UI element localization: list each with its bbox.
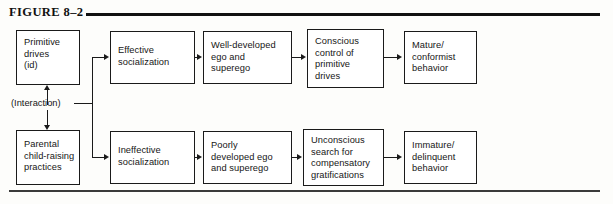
arrow-ineffective-to-ego-icon bbox=[197, 154, 202, 160]
interaction-arrow-up-icon bbox=[44, 85, 50, 90]
figure-title: FIGURE 8–2 bbox=[9, 5, 84, 20]
node-parental-practices: Parental child-raising practices bbox=[16, 130, 80, 185]
arrow-effective-to-ego-icon bbox=[197, 54, 202, 60]
node-parental-practices-label: Parental child-raising practices bbox=[24, 139, 79, 174]
trunk-branch-bottom-arrow-icon bbox=[104, 154, 109, 160]
arrow-unconscious-to-immature-icon bbox=[397, 154, 402, 160]
title-rule bbox=[86, 13, 600, 16]
node-primitive-drives-label: Primitive drives (id) bbox=[24, 37, 79, 72]
trunk-stub-line bbox=[74, 103, 93, 104]
node-effective-socialization-label: Effective socialization bbox=[118, 45, 194, 68]
node-well-developed-ego: Well-developed ego and superego bbox=[203, 31, 292, 84]
interaction-arrow-down-icon bbox=[44, 125, 50, 130]
node-mature-behavior-label: Mature/ conformist behavior bbox=[412, 40, 476, 75]
node-immature-behavior: Immature/ delinquent behavior bbox=[404, 131, 477, 184]
arrow-ego-to-conscious-icon bbox=[301, 54, 306, 60]
node-conscious-control: Conscious control of primitive drives bbox=[307, 29, 384, 88]
trunk-vertical-line bbox=[92, 57, 93, 158]
arrow-line-unconscious-to-immature bbox=[384, 157, 397, 158]
arrow-line-ego-to-conscious bbox=[292, 57, 301, 58]
node-unconscious-search-label: Unconscious search for compensatory grat… bbox=[311, 135, 383, 181]
arrow-ego-to-unconscious-icon bbox=[297, 154, 302, 160]
node-ineffective-socialization-label: Ineffective socialization bbox=[118, 145, 194, 168]
node-poorly-developed-ego: Poorly developed ego and superego bbox=[203, 131, 292, 184]
node-mature-behavior: Mature/ conformist behavior bbox=[404, 31, 477, 84]
interaction-line-lower bbox=[47, 110, 48, 125]
node-poorly-developed-ego-label: Poorly developed ego and superego bbox=[211, 140, 291, 175]
node-ineffective-socialization: Ineffective socialization bbox=[110, 131, 195, 184]
trunk-branch-top-arrow-icon bbox=[104, 54, 109, 60]
arrow-conscious-to-mature-icon bbox=[397, 54, 402, 60]
node-unconscious-search: Unconscious search for compensatory grat… bbox=[303, 129, 384, 186]
node-effective-socialization: Effective socialization bbox=[110, 31, 195, 84]
node-primitive-drives: Primitive drives (id) bbox=[16, 30, 80, 85]
node-conscious-control-label: Conscious control of primitive drives bbox=[315, 36, 383, 82]
node-well-developed-ego-label: Well-developed ego and superego bbox=[211, 40, 291, 75]
bottom-rule bbox=[9, 190, 600, 192]
node-immature-behavior-label: Immature/ delinquent behavior bbox=[412, 140, 476, 175]
figure-container: FIGURE 8–2 Primitive drives (id) Effecti… bbox=[0, 0, 613, 204]
interaction-label: (Interaction) bbox=[11, 98, 61, 109]
arrow-line-conscious-to-mature bbox=[384, 57, 397, 58]
